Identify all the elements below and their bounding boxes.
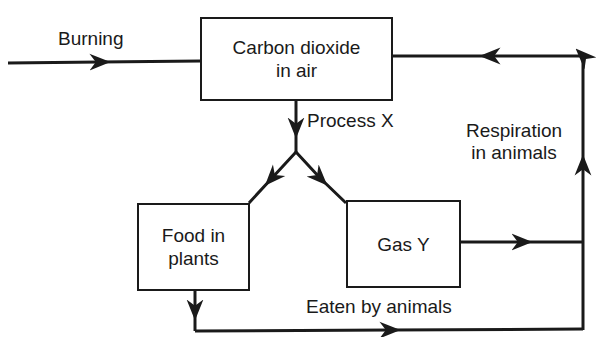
eaten-by-animals-arrow <box>195 329 583 331</box>
food-in-plants-box: Food in plants <box>137 203 250 291</box>
process-x-label: Process X <box>307 110 394 132</box>
gas-y-box: Gas Y <box>346 200 461 288</box>
respiration-line1: Respiration <box>450 120 578 142</box>
respiration-return-line <box>392 56 583 330</box>
food-label-line2: plants <box>162 247 225 270</box>
branch-to-gas <box>296 152 346 203</box>
burning-label: Burning <box>58 28 124 50</box>
respiration-line2: in animals <box>450 142 578 164</box>
eaten-by-animals-label: Eaten by animals <box>306 296 452 318</box>
respiration-label: Respiration in animals <box>450 120 578 164</box>
burning-arrow <box>8 61 201 63</box>
co2-in-air-box: Carbon dioxide in air <box>200 17 393 101</box>
co2-label-line2: in air <box>233 59 361 82</box>
branch-to-food <box>249 152 296 203</box>
gas-y-label: Gas Y <box>377 233 429 256</box>
co2-label-line1: Carbon dioxide <box>233 36 361 59</box>
food-label-line1: Food in <box>162 224 225 247</box>
